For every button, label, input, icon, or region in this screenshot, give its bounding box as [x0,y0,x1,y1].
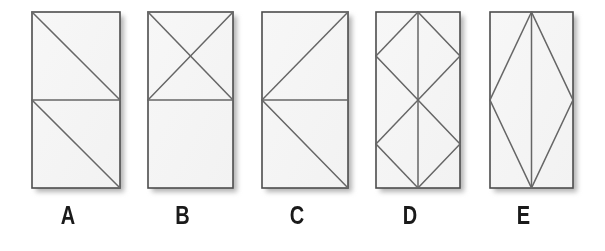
figure-label-a: A [33,203,103,228]
figure-e-drawing [484,6,583,198]
figure-label-e: E [490,203,556,228]
figure-a: A [26,0,136,251]
figure-b-drawing [142,6,243,198]
figure-label-c: C [263,203,332,228]
figure-label-d: D [376,203,443,228]
figure-c-drawing [256,6,358,198]
figure-e: E [484,0,589,251]
figure-label-b: B [149,203,217,228]
figure-d-drawing [370,6,470,198]
figure-d: D [370,0,476,251]
figure-b: B [142,0,249,251]
figure-a-drawing [26,6,130,198]
figure-board: ABCDE [0,0,605,251]
figure-c: C [256,0,364,251]
